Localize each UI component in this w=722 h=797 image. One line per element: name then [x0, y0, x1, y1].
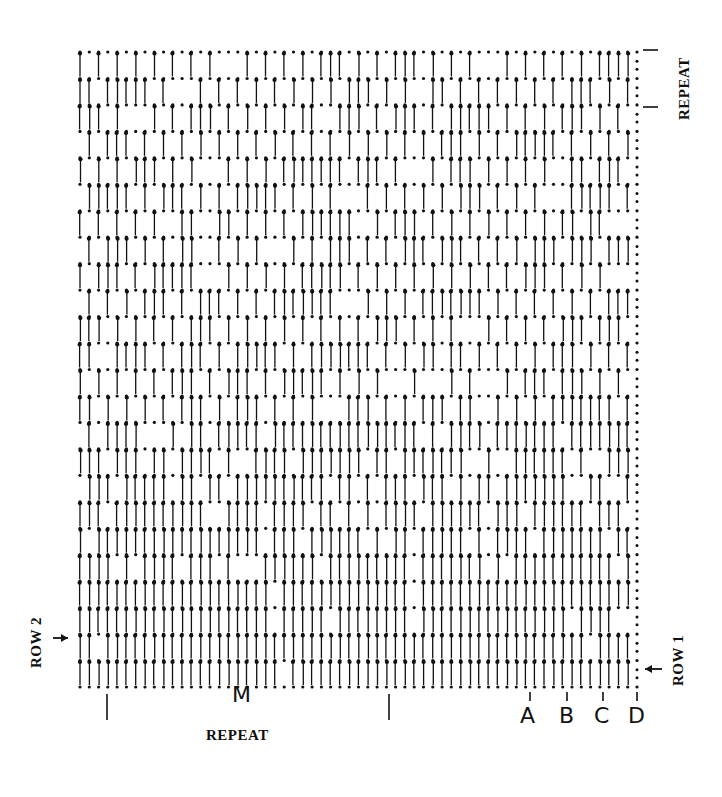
repeat-label-right: REPEAT — [676, 57, 693, 120]
row2-label: ROW 2 — [28, 617, 45, 668]
repeat-ticks — [107, 50, 658, 720]
center-mark-m: M — [232, 682, 251, 707]
stitch-chart — [0, 0, 722, 797]
stitch-grid — [78, 50, 639, 688]
marker-d: D — [628, 703, 645, 728]
marker-b: B — [559, 703, 574, 728]
repeat-label-bottom: REPEAT — [206, 727, 269, 744]
row1-label: ROW 1 — [670, 635, 687, 686]
marker-a: A — [520, 703, 535, 728]
marker-c: C — [594, 703, 609, 728]
